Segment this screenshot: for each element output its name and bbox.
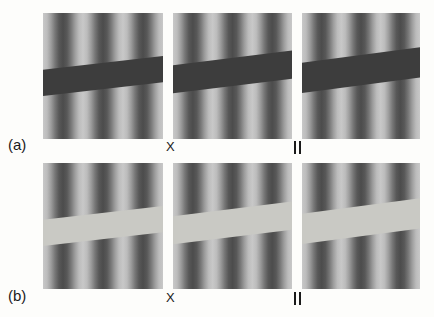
- tilted-light-bar: [173, 198, 292, 249]
- tilted-light-bar: [43, 202, 163, 250]
- panel-a-1: [43, 13, 163, 139]
- panel-b-3: [302, 163, 420, 289]
- occluding-bar-layer: [43, 13, 163, 139]
- tilted-dark-bar: [173, 47, 292, 98]
- parallel-symbol-icon: ∥: [293, 141, 302, 154]
- occluding-bar-layer: [173, 13, 292, 139]
- occluding-bar-layer: [302, 163, 420, 289]
- panel-b-2: [173, 163, 292, 289]
- row-tag-1: (a): [8, 137, 26, 152]
- occluding-bar-layer: [173, 163, 292, 289]
- figure-container: X∥(a)X∥(b): [0, 0, 434, 317]
- occluding-bar-layer: [302, 13, 420, 139]
- row-tag-2: (b): [8, 288, 26, 303]
- tilted-dark-bar: [43, 52, 163, 100]
- column-label-3-row-1: ∥: [293, 140, 302, 154]
- cross-symbol-text: X: [166, 139, 175, 154]
- parallel-symbol-icon: ∥: [293, 292, 302, 305]
- column-label-2-row-2: X: [166, 291, 175, 304]
- column-label-3-row-2: ∥: [293, 291, 302, 305]
- occluding-bar-layer: [43, 163, 163, 289]
- panel-b-1: [43, 163, 163, 289]
- cross-symbol-text: X: [166, 290, 175, 305]
- panel-a-3: [302, 13, 420, 139]
- tilted-dark-bar: [302, 42, 420, 96]
- column-label-2-row-1: X: [166, 140, 175, 153]
- tilted-light-bar: [302, 194, 420, 248]
- panel-a-2: [173, 13, 292, 139]
